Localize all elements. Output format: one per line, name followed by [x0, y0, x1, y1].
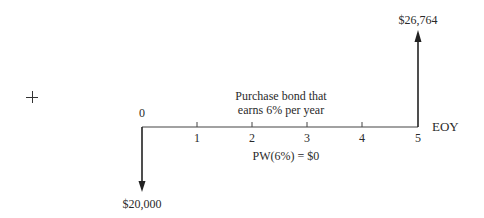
description-line-1: Purchase bond that: [235, 89, 326, 103]
tick-label-5: 5: [415, 131, 421, 145]
cash-flow-diagram: 0 1 2 3 4 5 EOY Purchase bond that earns…: [0, 0, 484, 218]
axis-ticks: [197, 122, 362, 127]
axis-label-eoy: EOY: [432, 120, 459, 134]
cash-outflow-arrow-year-0: [139, 127, 146, 192]
plus-marker-icon: [26, 91, 38, 103]
tick-label-0: 0: [139, 106, 145, 120]
present-worth-label: PW(6%) = $0: [253, 149, 320, 163]
cash-outflow-amount: $20,000: [123, 197, 162, 211]
cash-inflow-amount: $26,764: [399, 13, 438, 27]
tick-label-4: 4: [359, 131, 365, 145]
cash-inflow-arrow-year-5: [415, 30, 422, 127]
tick-label-1: 1: [194, 131, 200, 145]
description-line-2: earns 6% per year: [238, 103, 324, 117]
tick-label-3: 3: [304, 131, 310, 145]
tick-label-2: 2: [249, 131, 255, 145]
